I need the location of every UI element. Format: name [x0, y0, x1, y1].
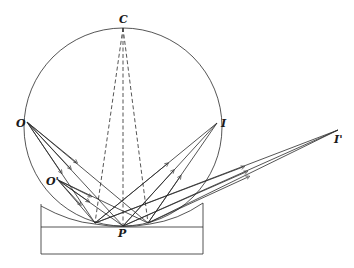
label-i-prime: I' [334, 134, 343, 145]
rays-i-diffracted [95, 123, 217, 226]
rays-o-incident [27, 122, 148, 226]
label-p: P [118, 228, 126, 239]
rowland-circle-diagram: C O O' I I' P [0, 0, 354, 268]
normals-from-c [95, 28, 148, 226]
diagram-canvas [0, 0, 354, 268]
label-c: C [119, 14, 128, 25]
label-o: O [16, 118, 26, 129]
label-o-prime: O' [46, 176, 59, 187]
rays-i-prime [95, 130, 338, 226]
label-i: I [221, 118, 226, 129]
